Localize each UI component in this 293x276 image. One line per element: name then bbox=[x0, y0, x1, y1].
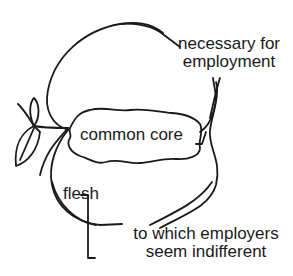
necessary-label: necessary for employment bbox=[168, 35, 290, 71]
apple-outline-right bbox=[160, 82, 218, 228]
apple-outline-left-lower bbox=[51, 130, 122, 225]
indifferent-label: to which employers seem indifferent bbox=[118, 225, 293, 261]
apple-outline-top bbox=[47, 23, 163, 130]
stem-line bbox=[18, 104, 68, 128]
flesh-label: flesh bbox=[63, 185, 99, 203]
apple-diagram: necessary for employment common core fle… bbox=[0, 0, 293, 276]
apple-crossing-stroke-2 bbox=[210, 78, 220, 118]
necessary-label-line2: employment bbox=[168, 53, 290, 71]
upper-leaf bbox=[30, 98, 38, 126]
necessary-label-line1: necessary for bbox=[168, 35, 290, 53]
flesh-bracket bbox=[81, 195, 95, 258]
indifferent-label-line2: seem indifferent bbox=[118, 243, 293, 261]
cropped-text-fragment bbox=[0, 0, 293, 2]
common-core-label: common core bbox=[80, 126, 183, 144]
indifferent-label-line1: to which employers bbox=[118, 225, 293, 243]
